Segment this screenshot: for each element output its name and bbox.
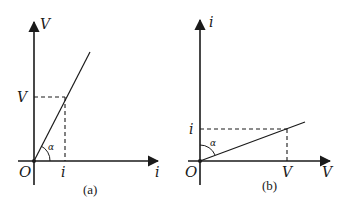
panel-b-origin-label: O bbox=[185, 163, 197, 181]
panel-b: i i O V V α (b) bbox=[185, 14, 334, 193]
panel-b-angle-label: α bbox=[210, 138, 216, 148]
panel-a-caption: (a) bbox=[83, 182, 97, 197]
diagram-canvas: V V O i i α (a) i i O V V α (b) bbox=[0, 0, 343, 207]
panel-b-x-axis-label: V bbox=[322, 164, 334, 180]
panel-a-y-axis-label: V bbox=[40, 16, 52, 32]
panel-b-origin-dot bbox=[198, 159, 202, 163]
panel-b-x-tick-label: V bbox=[282, 164, 294, 180]
panel-a-x-tick-label: i bbox=[61, 164, 65, 180]
panel-b-caption: (b) bbox=[262, 178, 277, 193]
panel-a: V V O i i α (a) bbox=[17, 16, 159, 197]
panel-a-origin-label: O bbox=[19, 163, 31, 181]
panel-b-y-axis-label: i bbox=[209, 14, 213, 30]
panel-b-y-tick-label: i bbox=[189, 121, 193, 137]
panel-a-y-tick-label: V bbox=[17, 89, 29, 105]
panel-a-graph-line bbox=[34, 52, 90, 161]
panel-a-origin-dot bbox=[32, 159, 36, 163]
panel-a-angle-label: α bbox=[48, 142, 54, 152]
panel-a-x-axis-label: i bbox=[155, 164, 159, 180]
